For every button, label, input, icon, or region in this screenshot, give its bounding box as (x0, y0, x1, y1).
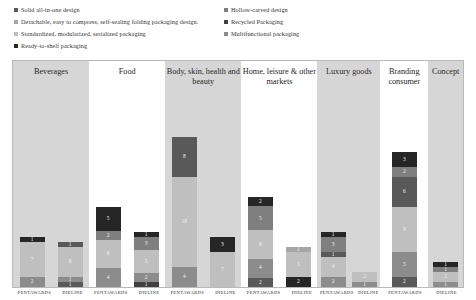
group-title: Luxury goods (317, 61, 380, 89)
bar-segment[interactable]: 2 (286, 277, 311, 287)
bar-segment[interactable]: 1 (134, 282, 159, 287)
bar-segment[interactable]: 7 (210, 252, 235, 287)
x-axis-group: PENTAWARDSDIELINE (241, 289, 317, 299)
group-bars: 818437 (165, 89, 241, 287)
stacked-bar[interactable]: 1611 (58, 242, 83, 287)
stacked-bar[interactable]: 172 (20, 237, 45, 287)
chart-legend: Solid all-in-one designHollow-carved des… (0, 0, 476, 56)
group-title: Beverages (13, 61, 89, 89)
bar-segment[interactable]: 4 (96, 268, 121, 287)
bar-segment[interactable]: 2 (248, 197, 273, 206)
x-axis-tick-label: DIELINE (292, 289, 313, 299)
chart-group-body-skin-health-and-beauty: Body, skin, health and beauty818437 (165, 61, 241, 287)
x-axis-tick-labels: PENTAWARDSDIELINEPENTAWARDSDIELINEPENTAW… (12, 289, 464, 299)
group-title: Food (89, 61, 165, 89)
x-axis-tick-label: DIELINE (215, 289, 236, 299)
legend-item-label: Solid all-in-one design (21, 6, 80, 14)
bar-segment[interactable]: 18 (172, 177, 197, 267)
legend-column-left: Solid all-in-one design (0, 6, 212, 14)
stacked-bar[interactable]: 21 (352, 272, 377, 287)
bar-segment[interactable]: 2 (20, 277, 45, 287)
legend-item-label: Multifunctional packaging (231, 30, 299, 38)
bar-segment[interactable]: 4 (248, 259, 273, 278)
x-axis-tick-label: PENTAWARDS (94, 289, 128, 299)
bar-segment[interactable]: 3 (392, 152, 417, 167)
bar-segment[interactable]: 2 (392, 277, 417, 287)
x-axis-tick-label: DIELINE (62, 289, 83, 299)
bar-segment[interactable]: 2 (352, 272, 377, 282)
stacked-bar[interactable]: 25642 (248, 197, 273, 287)
bar-segment[interactable]: 8 (172, 137, 197, 177)
bar-segment[interactable]: 5 (286, 252, 311, 277)
group-title: Body, skin, health and beauty (165, 61, 241, 89)
bar-segment[interactable]: 6 (58, 247, 83, 277)
bar-segment[interactable]: 4 (321, 257, 346, 277)
bar-segment[interactable]: 3 (210, 237, 235, 252)
stacked-bar[interactable]: 5264 (96, 207, 121, 287)
legend-swatch-icon (224, 32, 228, 36)
chart-group-food: Food526413521 (89, 61, 165, 287)
bar-segment[interactable]: 3 (321, 237, 346, 252)
bar-segment[interactable]: 6 (96, 240, 121, 268)
legend-item-label: Standardized, modularized, serialized pa… (21, 30, 146, 38)
x-axis-group: PENTAWARDSDIELINE (318, 289, 381, 299)
x-axis-tick-label: DIELINE (436, 289, 457, 299)
x-axis-tick-label: PENTAWARDS (247, 289, 281, 299)
chart-group-branding-consumer: Branding consumer326952 (380, 61, 428, 287)
x-axis-tick-label: PENTAWARDS (388, 289, 422, 299)
bar-segment[interactable]: 1 (433, 282, 458, 287)
x-axis-group: PENTAWARDS (381, 289, 429, 299)
legend-column-right: Recycled Packaging (212, 18, 462, 26)
legend-swatch-icon (224, 8, 228, 12)
bar-segment[interactable]: 7 (20, 242, 45, 277)
group-title: Branding consumer (380, 61, 428, 89)
x-axis-tick-label: PENTAWARDS (170, 289, 204, 299)
bar-segment[interactable]: 5 (134, 250, 159, 273)
chart-group-beverages: Beverages1721611 (13, 61, 89, 287)
group-bars: 25642152 (241, 89, 317, 287)
bar-segment[interactable]: 2 (321, 277, 346, 287)
group-bars: 326952 (380, 89, 428, 287)
x-axis-group: DIELINE (429, 289, 464, 299)
bar-segment[interactable]: 4 (172, 267, 197, 287)
legend-swatch-icon (14, 32, 18, 36)
stacked-bar[interactable]: 13521 (134, 232, 159, 287)
chart-group-luxury-goods: Luxury goods1314221 (317, 61, 380, 287)
chart-group-home-leisure-other-markets: Home, leisure & other markets25642152 (241, 61, 317, 287)
bar-segment[interactable]: 2 (248, 278, 273, 287)
x-axis-group: PENTAWARDSDIELINE (165, 289, 241, 299)
legend-row: Standardized, modularized, serialized pa… (0, 30, 476, 41)
legend-column-left: Ready-to-shelf packaging (0, 42, 212, 50)
stacked-bar[interactable]: 1121 (433, 262, 458, 287)
stacked-bar[interactable]: 13142 (321, 232, 346, 287)
stacked-bar[interactable]: 37 (210, 237, 235, 287)
group-bars: 1314221 (317, 89, 380, 287)
legend-column-right: Multifunctional packaging (212, 30, 462, 38)
bar-segment[interactable]: 2 (392, 167, 417, 177)
bar-segment[interactable]: 2 (134, 273, 159, 282)
bar-segment[interactable]: 2 (433, 272, 458, 282)
bar-segment[interactable]: 1 (352, 282, 377, 287)
chart-group-concept: Concept1121 (428, 61, 463, 287)
stacked-bar[interactable]: 326952 (392, 152, 417, 287)
x-axis-tick-label: DIELINE (139, 289, 160, 299)
legend-row: Solid all-in-one designHollow-carved des… (0, 6, 476, 17)
bar-segment[interactable]: 6 (392, 177, 417, 207)
bar-segment[interactable]: 1 (58, 282, 83, 287)
group-bars: 526413521 (89, 89, 165, 287)
stacked-bar[interactable]: 152 (286, 247, 311, 287)
bar-segment[interactable]: 5 (392, 252, 417, 277)
bar-segment[interactable]: 3 (134, 237, 159, 251)
x-axis-tick-label: PENTAWARDS (320, 289, 354, 299)
bar-segment[interactable]: 6 (248, 230, 273, 258)
legend-swatch-icon (14, 8, 18, 12)
bar-segment[interactable]: 2 (96, 231, 121, 240)
group-bars: 1121 (428, 89, 463, 287)
bar-segment[interactable]: 9 (392, 207, 417, 252)
bar-segment[interactable]: 5 (248, 206, 273, 230)
stacked-bar[interactable]: 8184 (172, 137, 197, 287)
group-title: Home, leisure & other markets (241, 61, 317, 89)
legend-swatch-icon (14, 44, 18, 48)
bar-segment[interactable]: 5 (96, 207, 121, 231)
legend-item-label: Hollow-carved design (231, 6, 288, 14)
